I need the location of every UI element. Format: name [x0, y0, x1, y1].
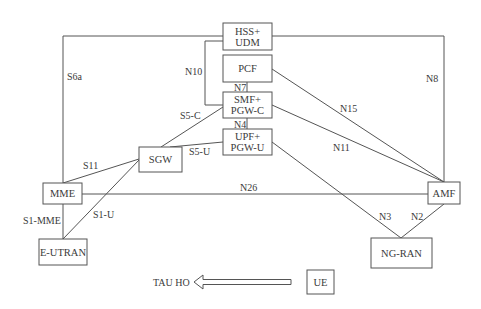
- label-n26: N26: [240, 182, 257, 193]
- node-amf: AMF: [428, 182, 460, 204]
- tau-ho-label: TAU HO: [153, 277, 190, 288]
- label-s5c: S5-C: [180, 110, 201, 121]
- label-n4: N4: [234, 119, 246, 130]
- handover-arrow: TAU HO: [153, 275, 291, 289]
- upf-label-line2: PGW-U: [231, 142, 265, 153]
- hss-label-line2: UDM: [235, 37, 260, 48]
- node-mme: MME: [43, 183, 82, 204]
- label-n7: N7: [234, 82, 246, 93]
- e-utran-label: E-UTRAN: [40, 247, 86, 258]
- node-ng-ran: NG-RAN: [371, 238, 432, 268]
- link-n15: [272, 69, 444, 182]
- link-s11: [63, 159, 139, 183]
- link-n3: [272, 142, 401, 238]
- node-ue: UE: [307, 270, 334, 294]
- label-n10: N10: [185, 66, 202, 77]
- sgw-label: SGW: [149, 154, 172, 165]
- label-s6a: S6a: [67, 71, 83, 82]
- node-upf-pgwu: UPF+ PGW-U: [223, 129, 272, 155]
- label-s1u: S1-U: [93, 209, 115, 220]
- pcf-label: PCF: [238, 63, 257, 74]
- network-diagram: HSS+ UDM PCF SMF+ PGW-C UPF+ PGW-U SGW M…: [0, 0, 481, 309]
- label-s11: S11: [83, 160, 98, 171]
- node-pcf: PCF: [223, 55, 272, 82]
- hss-label-line1: HSS+: [235, 26, 260, 37]
- smf-label-line1: SMF+: [234, 94, 261, 105]
- label-n2: N2: [411, 211, 423, 222]
- amf-label: AMF: [433, 188, 456, 199]
- link-n8: [272, 36, 444, 182]
- label-s1mme: S1-MME: [23, 215, 61, 226]
- left-arrow-icon: [194, 275, 291, 289]
- node-e-utran: E-UTRAN: [39, 239, 87, 265]
- label-n11: N11: [333, 142, 350, 153]
- ue-label: UE: [314, 277, 328, 288]
- smf-label-line2: PGW-C: [231, 105, 264, 116]
- node-hss-udm: HSS+ UDM: [223, 23, 272, 50]
- label-s5u: S5-U: [189, 146, 211, 157]
- mme-label: MME: [50, 188, 75, 199]
- link-n11: [272, 105, 444, 182]
- link-n10: [205, 41, 223, 105]
- label-n8: N8: [426, 73, 438, 84]
- label-n3: N3: [379, 211, 391, 222]
- node-sgw: SGW: [139, 147, 182, 172]
- ng-ran-label: NG-RAN: [381, 248, 422, 259]
- label-n15: N15: [340, 103, 357, 114]
- upf-label-line1: UPF+: [235, 131, 260, 142]
- node-smf-pgwc: SMF+ PGW-C: [223, 92, 272, 118]
